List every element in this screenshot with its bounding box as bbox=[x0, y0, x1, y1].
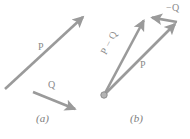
vector-label-p-a: P bbox=[38, 41, 44, 52]
origin-dot bbox=[101, 92, 107, 98]
vector-label-q-a: Q bbox=[48, 79, 56, 90]
vector-label-minus-q-b: −Q bbox=[166, 2, 179, 13]
vector-p-shaft-a bbox=[5, 17, 83, 89]
panel-caption-a: (a) bbox=[36, 112, 49, 124]
vector-subtraction-figure: P Q P − Q P −Q (a) (b) bbox=[0, 0, 190, 139]
figure-canvas bbox=[0, 0, 190, 139]
vector-q-shaft-a bbox=[33, 92, 75, 109]
panel-a-vectors bbox=[5, 17, 83, 109]
panel-caption-b: (b) bbox=[130, 112, 143, 124]
vector-minus-q-shaft-b bbox=[152, 18, 177, 22]
vector-label-p-b: P bbox=[140, 59, 146, 70]
